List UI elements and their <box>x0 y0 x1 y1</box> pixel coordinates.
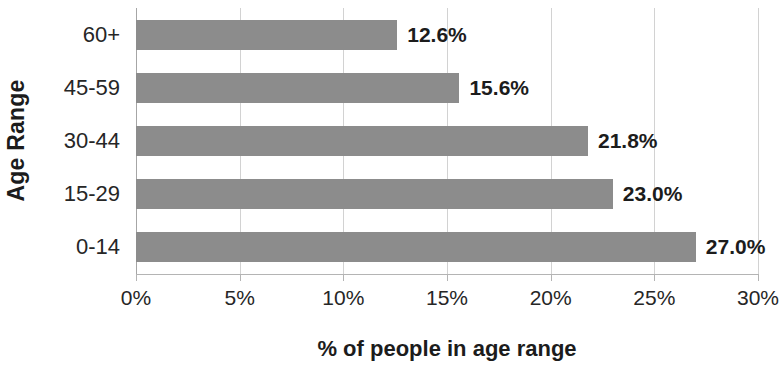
x-axis-tick-labels: 0%5%10%15%20%25%30% <box>136 286 758 316</box>
x-axis-tick-mark <box>447 275 448 281</box>
x-axis-tick-mark <box>758 275 759 281</box>
x-axis-tick-label: 0% <box>121 286 151 310</box>
x-axis-tick-mark <box>551 275 552 281</box>
x-axis-tick-label: 5% <box>224 286 254 310</box>
x-axis-tick-label: 15% <box>426 286 468 310</box>
x-axis-tick-mark <box>343 275 344 281</box>
x-axis-tick-label: 10% <box>322 286 364 310</box>
y-axis-tick-labels: 60+45-5930-4415-290-14 <box>34 8 128 274</box>
y-axis-title: Age Range <box>0 0 34 280</box>
x-axis-tick-label: 20% <box>530 286 572 310</box>
x-axis-tick-mark <box>240 275 241 281</box>
x-axis-title: % of people in age range <box>136 336 758 362</box>
x-axis-tick-label: 30% <box>737 286 779 310</box>
x-axis-tick-mark <box>136 275 137 281</box>
bar-chart: Age Range 60+45-5930-4415-290-14 12.6%15… <box>0 0 784 379</box>
x-axis-tick-label: 25% <box>633 286 675 310</box>
y-axis-title-text: Age Range <box>4 79 31 201</box>
x-axis-tick-mark <box>654 275 655 281</box>
bar-value-labels: 12.6%15.6%21.8%23.0%27.0% <box>136 8 784 274</box>
